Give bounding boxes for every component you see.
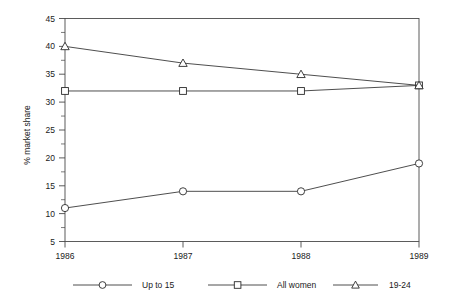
y-tick-label: 5	[50, 237, 55, 247]
y-tick-label: 25	[46, 125, 56, 135]
chart-canvas: % market share 45 40 35 30 25 20 15 10 5	[0, 0, 456, 303]
chart-legend: Up to 15 All women 19-24	[73, 280, 411, 290]
y-tick-label: 20	[46, 153, 56, 163]
x-tick-label: 1989	[410, 251, 429, 261]
series-19-24	[61, 42, 423, 88]
data-point-open-circle	[61, 204, 68, 211]
x-tick-label: 1988	[292, 251, 311, 261]
y-tick-label: 35	[46, 69, 56, 79]
legend-item-all-women[interactable]: All women	[208, 280, 316, 290]
y-tick-label: 40	[46, 41, 56, 51]
data-point-open-square	[298, 88, 305, 95]
data-point-open-circle	[297, 188, 304, 195]
plot-frame	[65, 19, 419, 242]
series-all-women	[62, 82, 423, 94]
y-tick-label: 45	[46, 14, 56, 24]
series-line	[65, 46, 419, 85]
series-line	[65, 163, 419, 208]
y-tick-label: 30	[46, 97, 56, 107]
x-axis-tick-labels: 1986 1987 1988 1989	[56, 251, 429, 261]
data-point-open-circle	[415, 160, 422, 167]
data-point-open-square	[62, 88, 69, 95]
y-axis-tick-labels: 45 40 35 30 25 20 15 10 5	[46, 14, 56, 247]
data-point-open-circle	[179, 188, 186, 195]
legend-label: 19-24	[389, 280, 411, 290]
series-layer	[61, 42, 423, 211]
line-chart: % market share 45 40 35 30 25 20 15 10 5	[0, 0, 456, 303]
y-tick-label: 15	[46, 181, 56, 191]
open-circle-icon	[99, 282, 106, 289]
y-tick-label: 10	[46, 209, 56, 219]
series-line	[65, 85, 419, 91]
y-axis-title: % market share	[22, 105, 32, 165]
legend-label: All women	[277, 280, 316, 290]
series-up-to-15	[61, 160, 422, 212]
legend-item-up-to-15[interactable]: Up to 15	[73, 280, 174, 290]
x-tick-label: 1987	[174, 251, 193, 261]
legend-label: Up to 15	[142, 280, 174, 290]
open-square-icon	[234, 282, 241, 289]
x-axis-ticks	[65, 242, 419, 248]
data-point-open-square	[180, 88, 187, 95]
x-tick-label: 1986	[56, 251, 75, 261]
legend-item-19-24[interactable]: 19-24	[333, 280, 411, 290]
